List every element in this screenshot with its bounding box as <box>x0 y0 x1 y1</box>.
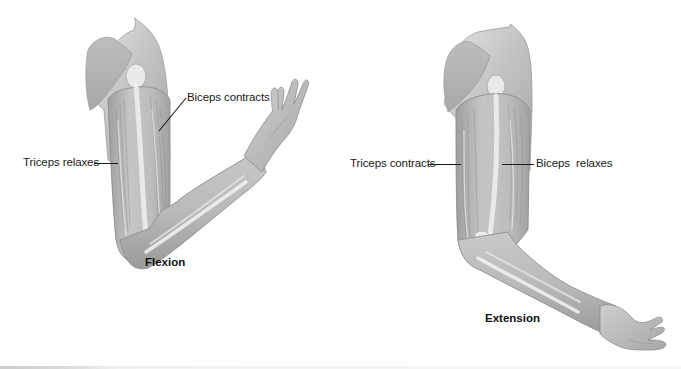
figure-canvas: Biceps contracts Triceps relaxes Flexion… <box>0 0 681 369</box>
label-biceps-contracts: Biceps contracts <box>187 92 270 104</box>
leader-line-triceps-contracts <box>428 164 461 165</box>
label-biceps-relaxes: Biceps relaxes <box>536 158 612 170</box>
label-triceps-contracts: Triceps contracts <box>350 158 435 170</box>
leader-line-biceps-contracts <box>150 96 190 136</box>
caption-flexion: Flexion <box>145 257 185 269</box>
label-triceps-relaxes: Triceps relaxes <box>23 157 99 169</box>
leader-line-triceps-relaxes <box>94 163 118 164</box>
caption-extension: Extension <box>485 313 540 325</box>
arm-illustrations <box>0 0 681 369</box>
extension-arm <box>444 24 666 350</box>
leader-line-biceps-relaxes <box>502 164 534 165</box>
flexion-arm <box>86 18 309 269</box>
